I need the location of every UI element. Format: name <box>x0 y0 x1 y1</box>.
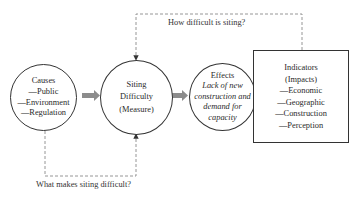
causes-item-environment: —Environment <box>17 98 69 109</box>
top-question-label: How difficult is siting? <box>168 18 245 27</box>
indicators-line-2: (Impacts) <box>285 74 317 86</box>
bottom-question-label: What makes siting difficult? <box>36 180 131 189</box>
effects-line-3: demand for <box>203 102 241 113</box>
thick-arrow-causes-to-siting <box>82 90 100 101</box>
indicators-item-perception: —Perception <box>279 120 323 132</box>
dashed-feedback-bottom <box>45 131 136 176</box>
indicators-item-economic: —Economic <box>280 85 322 97</box>
effects-line-2: construction and <box>194 92 251 103</box>
indicators-item-geographic: —Geographic <box>277 97 324 109</box>
causes-node: Causes —Public —Environment —Regulation <box>10 64 77 131</box>
siting-line-1: Siting <box>126 79 146 92</box>
siting-difficulty-node: Siting Difficulty (Measure) <box>100 60 173 135</box>
indicators-line-1: Indicators <box>284 62 318 74</box>
effects-title: Effects <box>211 71 235 82</box>
causes-title: Causes <box>32 76 56 87</box>
indicators-item-construction: —Construction <box>275 108 327 120</box>
effects-line-4: capacity <box>208 113 236 124</box>
indicators-node: Indicators (Impacts) —Economic —Geograph… <box>253 50 349 143</box>
causes-item-public: —Public <box>29 87 59 98</box>
effects-line-1: Lack of new <box>202 81 242 92</box>
siting-line-3: (Measure) <box>119 104 153 117</box>
siting-line-2: Difficulty <box>120 91 153 104</box>
causes-item-regulation: —Regulation <box>21 108 66 119</box>
effects-node: Effects Lack of new construction and dem… <box>189 63 256 131</box>
